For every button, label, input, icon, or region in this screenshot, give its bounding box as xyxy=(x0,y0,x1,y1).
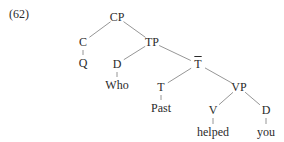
leaf-past: Past xyxy=(151,102,171,114)
node-vp: VP xyxy=(231,81,246,93)
tree-edge xyxy=(89,22,110,38)
leaf-q: Q xyxy=(79,57,88,69)
example-number: (62) xyxy=(9,8,29,20)
tree-edge xyxy=(159,46,191,61)
leaf-who: Who xyxy=(105,79,128,91)
node-v: V xyxy=(209,104,218,116)
syntax-tree-diagram: (62) CP C Q TP D Who T T Past VP V helpe… xyxy=(0,0,284,142)
node-c: C xyxy=(79,36,87,48)
node-tp: TP xyxy=(145,36,159,48)
tree-edge xyxy=(219,92,233,104)
tree-edge xyxy=(245,92,260,105)
node-t: T xyxy=(157,81,164,93)
tree-edge xyxy=(124,22,146,38)
node-d-subject: D xyxy=(113,58,122,70)
tree-edges xyxy=(0,0,284,142)
leaf-you: you xyxy=(257,126,275,138)
node-t-bar: T xyxy=(194,58,201,70)
node-cp: CP xyxy=(110,11,125,23)
node-d-object: D xyxy=(262,104,271,116)
tree-edge xyxy=(168,68,191,83)
tree-edge xyxy=(124,46,145,59)
leaf-helped: helped xyxy=(197,126,229,138)
tree-edge xyxy=(205,68,232,83)
